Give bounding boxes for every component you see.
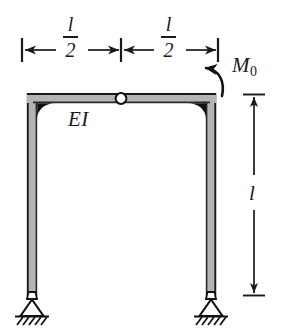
top-dimension-group <box>22 38 218 62</box>
left-ground-hatching <box>17 317 47 325</box>
right-span-label: l 2 <box>161 14 176 60</box>
frame-drawing-canvas <box>0 0 281 334</box>
right-pinned-support-icon <box>200 300 223 317</box>
right-ground-hatching <box>196 317 226 325</box>
left-support-assembly <box>15 292 49 325</box>
right-span-numerator: l <box>166 14 172 35</box>
right-support-assembly <box>194 292 228 325</box>
counterclockwise-moment-arrow-icon <box>206 68 223 96</box>
moment-label: M0 <box>232 55 257 79</box>
right-span-fraction-bar <box>161 36 176 38</box>
left-span-label: l 2 <box>63 14 78 60</box>
right-column-member <box>206 93 216 296</box>
left-span-denominator: 2 <box>66 39 76 60</box>
moment-subscript: 0 <box>250 64 258 79</box>
hinge-circle-icon <box>116 93 127 104</box>
moment-symbol: M <box>232 53 250 77</box>
right-span-denominator: 2 <box>164 39 174 60</box>
left-span-numerator: l <box>68 14 74 35</box>
midspan-hinge <box>116 93 127 104</box>
applied-moment-arrow <box>206 68 223 96</box>
flexural-stiffness-label: EI <box>68 109 89 130</box>
left-span-fraction-bar <box>63 36 78 38</box>
left-column-member <box>27 93 37 296</box>
portal-frame <box>27 93 216 296</box>
structural-frame-figure: l 2 l 2 EI M0 l <box>0 0 281 334</box>
top-left-gusset-haunch <box>37 103 55 119</box>
top-right-gusset-haunch <box>188 103 206 119</box>
height-label: l <box>249 183 255 204</box>
left-pinned-support-icon <box>21 300 44 317</box>
